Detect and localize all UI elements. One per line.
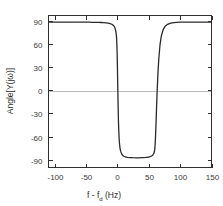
y-axis-title-text: Angle[Y(jω)]: [5, 68, 15, 114]
svg-text:f - fd (Hz): f - fd (Hz): [87, 190, 121, 202]
y-tick-label: 0: [38, 87, 43, 96]
y-tick-label: 30: [34, 64, 43, 73]
x-axis-title-unit: (Hz): [103, 190, 122, 200]
y-tick-label: -60: [31, 134, 43, 143]
x-tick-label: 100: [174, 173, 188, 182]
y-tick-label: 90: [34, 18, 43, 27]
x-axis-title-main: f - f: [87, 190, 100, 200]
y-tick-label: -90: [31, 157, 43, 166]
y-tick-label: -30: [31, 110, 43, 119]
x-tick-label: 50: [145, 173, 154, 182]
chart-background: [0, 0, 223, 206]
x-tick-label: 150: [206, 173, 220, 182]
y-axis-title: Angle[Y(jω)]: [5, 68, 15, 114]
chart-figure: -100-50050100150 9060300-30-60-90 f - fd…: [0, 0, 223, 206]
x-tick-label: -100: [47, 173, 64, 182]
x-tick-label: -50: [81, 173, 93, 182]
phase-response-chart: -100-50050100150 9060300-30-60-90 f - fd…: [0, 0, 223, 206]
x-axis-title: f - fd (Hz): [87, 190, 121, 202]
x-tick-label: 0: [115, 173, 120, 182]
y-tick-label: 60: [34, 41, 43, 50]
